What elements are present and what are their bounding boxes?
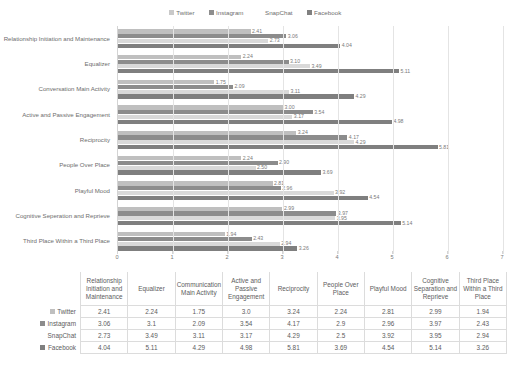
x-tick-label: 2 (225, 254, 228, 260)
bar-groups: 2.413.062.734.042.243.103.495.111.752.09… (118, 26, 502, 254)
category-label: Cognitive Seperation and Reprieve (0, 203, 113, 228)
bar-value-label: 3.69 (322, 170, 332, 175)
chart-plot-wrapper: Relationship Initiation and MaintenanceE… (0, 26, 510, 264)
x-tick-label: 6 (445, 254, 448, 260)
bar-group: 2.243.103.495.11 (118, 51, 502, 76)
table-cell: 3.26 (459, 342, 506, 354)
table-cell: 5.81 (270, 342, 317, 354)
legend-item-instagram[interactable]: Instagram (209, 9, 244, 16)
legend-item-label: Facebook (314, 9, 341, 16)
bar-row: 2.09 (118, 85, 502, 89)
table-column-header: Equalizer (128, 272, 175, 306)
bar-group: 1.752.093.114.29 (118, 77, 502, 102)
table-swatch-twitter-icon (50, 309, 55, 314)
bar-row: 2.24 (118, 156, 502, 160)
bar-twitter[interactable] (118, 105, 283, 109)
bar-instagram[interactable] (118, 60, 289, 64)
category-label: Equalizer (0, 51, 113, 76)
bar-snapchat[interactable] (118, 115, 292, 119)
legend-item-snapchat[interactable]: SnapChat (258, 9, 293, 16)
table-corner-cell (3, 272, 81, 306)
legend-item-twitter[interactable]: Twitter (169, 9, 195, 16)
bar-snapchat[interactable] (118, 191, 334, 195)
bar-facebook[interactable] (118, 145, 438, 149)
bar-instagram[interactable] (118, 161, 278, 165)
bar-row: 3.49 (118, 64, 502, 68)
bar-instagram[interactable] (118, 135, 347, 139)
bar-row: 2.50 (118, 166, 502, 170)
bar-facebook[interactable] (118, 221, 401, 225)
table-cell: 3.49 (128, 330, 175, 342)
bar-group: 3.244.174.295.81 (118, 127, 502, 152)
plot-area: 2.413.062.734.042.243.103.495.111.752.09… (117, 26, 502, 254)
bar-snapchat[interactable] (118, 216, 335, 220)
bar-twitter[interactable] (118, 131, 296, 135)
bar-snapchat[interactable] (118, 140, 354, 144)
table-cell: 3.69 (317, 342, 364, 354)
bar-facebook[interactable] (118, 44, 340, 48)
bar-snapchat[interactable] (118, 39, 268, 43)
bar-row: 4.29 (118, 94, 502, 98)
table-cell: 4.04 (81, 342, 128, 354)
legend-item-label: SnapChat (265, 9, 293, 16)
legend-swatch-facebook-icon (307, 10, 312, 15)
bar-instagram[interactable] (118, 85, 233, 89)
bar-row: 2.81 (118, 181, 502, 185)
bar-row: 3.17 (118, 115, 502, 119)
x-tick-label: 4 (335, 254, 338, 260)
bar-twitter[interactable] (118, 55, 241, 59)
bar-twitter[interactable] (118, 156, 241, 160)
table-cell: 2.24 (128, 306, 175, 318)
legend-item-facebook[interactable]: Facebook (307, 9, 342, 16)
table-cell: 2.24 (317, 306, 364, 318)
table-cell: 3.11 (175, 330, 222, 342)
bar-facebook[interactable] (118, 120, 392, 124)
bar-twitter[interactable] (118, 232, 225, 236)
bar-row: 2.90 (118, 161, 502, 165)
bar-snapchat[interactable] (118, 64, 310, 68)
table-series-cell: Instagram (3, 318, 81, 330)
table-series-cell: Twitter (3, 306, 81, 318)
bar-row: 5.81 (118, 145, 502, 149)
bar-twitter[interactable] (118, 181, 273, 185)
bar-row: 3.11 (118, 90, 502, 94)
x-tick-label: 5 (390, 254, 393, 260)
bar-row: 2.94 (118, 242, 502, 246)
table-column-header: Playful Mood (364, 272, 411, 306)
gridline (283, 26, 284, 254)
bar-snapchat[interactable] (118, 242, 280, 246)
bar-row: 4.54 (118, 196, 502, 200)
bar-facebook[interactable] (118, 196, 368, 200)
table-series-label: Facebook (48, 344, 76, 352)
bar-snapchat[interactable] (118, 166, 256, 170)
bar-instagram[interactable] (118, 237, 252, 241)
table-cell: 3.17 (222, 330, 269, 342)
table-row: Facebook4.045.114.294.985.813.694.545.14… (3, 342, 507, 354)
bar-group: 2.413.062.734.04 (118, 26, 502, 51)
table-cell: 2.96 (364, 318, 411, 330)
bar-row: 5.11 (118, 69, 502, 73)
bar-snapchat[interactable] (118, 90, 289, 94)
bar-value-label: 4.04 (342, 43, 352, 48)
bar-row: 3.69 (118, 170, 502, 174)
table-cell: 3.92 (364, 330, 411, 342)
table-cell: 3.24 (270, 306, 317, 318)
bar-twitter[interactable] (118, 29, 251, 33)
bar-instagram[interactable] (118, 186, 281, 190)
bar-row: 4.98 (118, 120, 502, 124)
table-cell: 2.5 (317, 330, 364, 342)
table-cell: 1.94 (459, 306, 506, 318)
table-swatch-snapchat-icon (40, 333, 45, 338)
bar-facebook[interactable] (118, 69, 399, 73)
category-label: Reciprocity (0, 127, 113, 152)
bar-row: 3.97 (118, 211, 502, 215)
table-cell: 3.95 (412, 330, 459, 342)
bar-facebook[interactable] (118, 170, 321, 174)
bar-instagram[interactable] (118, 34, 286, 38)
bar-twitter[interactable] (118, 80, 214, 84)
category-label: Third Place Within a Third Place (0, 229, 113, 254)
bar-twitter[interactable] (118, 207, 282, 211)
table-cell: 3.1 (128, 318, 175, 330)
bar-facebook[interactable] (118, 94, 354, 98)
bar-facebook[interactable] (118, 246, 297, 250)
